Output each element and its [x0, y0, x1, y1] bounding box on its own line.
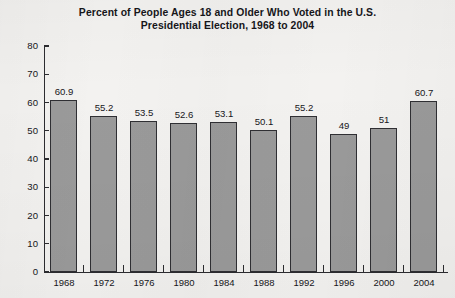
x-axis-tick-label: 1996: [322, 278, 366, 288]
chart-title-line-1: Percent of People Ages 18 and Older Who …: [0, 6, 455, 19]
y-axis-tick: [44, 271, 49, 272]
plot-area: [44, 46, 444, 272]
y-axis-tick: [44, 45, 49, 46]
chart-title: Percent of People Ages 18 and Older Who …: [0, 6, 455, 32]
y-axis-tick-label: 70: [4, 69, 38, 79]
y-axis-tick: [44, 158, 49, 159]
bar: [290, 116, 317, 272]
x-axis-tick-label: 2000: [362, 278, 406, 288]
bar: [410, 101, 437, 272]
bar-slot: [84, 46, 124, 272]
y-axis-tick: [44, 243, 49, 244]
bar-slot: [44, 46, 84, 272]
bar-slot: [324, 46, 364, 272]
bar: [330, 134, 357, 272]
bar: [90, 116, 117, 272]
y-axis-tick: [44, 102, 49, 103]
bar-value-label: 60.9: [42, 87, 86, 97]
y-axis-tick-label: 30: [4, 182, 38, 192]
x-axis-separator-tick: [443, 265, 444, 272]
bar: [370, 128, 397, 272]
bar-value-label: 60.7: [402, 88, 446, 98]
bar-slot: [204, 46, 244, 272]
chart-title-line-2: Presidential Election, 1968 to 2004: [0, 19, 455, 32]
y-axis-tick-label: 40: [4, 154, 38, 164]
y-axis-tick: [44, 187, 49, 188]
bar: [130, 121, 157, 272]
x-axis-tick-label: 1976: [122, 278, 166, 288]
bar-chart: Percent of People Ages 18 and Older Who …: [0, 0, 455, 298]
x-axis-tick-label: 1980: [162, 278, 206, 288]
y-axis-tick: [44, 74, 49, 75]
bar-value-label: 50.1: [242, 117, 286, 127]
x-axis-tick-label: 1968: [42, 278, 86, 288]
y-axis-tick-label: 50: [4, 126, 38, 136]
y-axis-tick: [44, 130, 49, 131]
y-axis-tick-label: 0: [4, 267, 38, 277]
bar-value-label: 53.1: [202, 109, 246, 119]
bar-value-label: 55.2: [82, 103, 126, 113]
y-axis-tick-label: 80: [4, 41, 38, 51]
x-axis-tick-label: 2004: [402, 278, 446, 288]
bar: [170, 123, 197, 272]
bar: [250, 130, 277, 272]
bar-value-label: 51: [362, 115, 406, 125]
bar: [210, 122, 237, 272]
x-axis-tick-label: 1984: [202, 278, 246, 288]
bar-slot: [404, 46, 444, 272]
x-axis-tick-label: 1972: [82, 278, 126, 288]
y-axis-tick-label: 60: [4, 98, 38, 108]
y-axis-tick: [44, 215, 49, 216]
x-axis-line: [44, 272, 448, 273]
bar-slot: [364, 46, 404, 272]
bar-slot: [124, 46, 164, 272]
bar-value-label: 52.6: [162, 110, 206, 120]
bar-value-label: 53.5: [122, 108, 166, 118]
y-axis-tick-label: 10: [4, 239, 38, 249]
bar-slot: [284, 46, 324, 272]
x-axis-tick-label: 1988: [242, 278, 286, 288]
bar-value-label: 55.2: [282, 103, 326, 113]
y-axis-tick-label: 20: [4, 211, 38, 221]
bar: [50, 100, 77, 272]
bar-slot: [244, 46, 284, 272]
bar-value-label: 49: [322, 121, 366, 131]
x-axis-tick-label: 1992: [282, 278, 326, 288]
bar-slot: [164, 46, 204, 272]
